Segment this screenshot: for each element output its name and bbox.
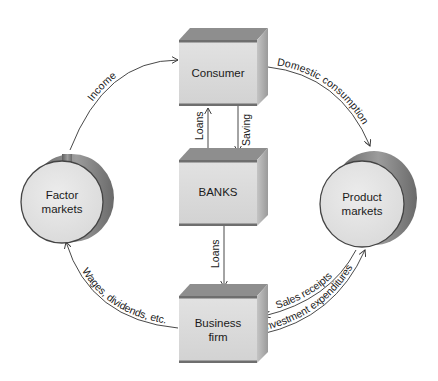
- node-business-firm: Business firm: [179, 284, 268, 363]
- business-firm-label-2: firm: [208, 331, 227, 343]
- node-banks: BANKS: [179, 148, 268, 226]
- svg-text:Income: Income: [84, 69, 118, 103]
- flow-loans-to-firm: Loans: [209, 226, 224, 287]
- svg-text:Wages, dividends, etc.: Wages, dividends, etc.: [80, 265, 168, 325]
- banks-label: BANKS: [199, 186, 238, 198]
- factor-markets-label-2: markets: [42, 203, 83, 215]
- node-factor-markets: Factor markets: [21, 154, 114, 243]
- node-consumer: Consumer: [179, 28, 268, 106]
- flow-label-wages: Wages, dividends, etc.: [80, 265, 168, 325]
- flow-income: Income: [70, 60, 178, 150]
- factor-markets-label-1: Factor: [46, 189, 79, 201]
- consumer-label: Consumer: [191, 67, 244, 79]
- circular-flow-diagram: Income Domestic consumption Wages, divid…: [0, 0, 438, 381]
- product-markets-label-1: Product: [342, 191, 382, 203]
- flow-label-saving: Saving: [240, 114, 252, 146]
- flow-loans-to-consumer: Loans: [193, 108, 208, 148]
- svg-text:Domestic consumption: Domestic consumption: [276, 55, 371, 126]
- flow-saving: Saving: [238, 106, 252, 152]
- flow-label-loans-up: Loans: [193, 111, 205, 140]
- flow-wages: Wages, dividends, etc.: [66, 242, 178, 328]
- product-markets-label-2: markets: [342, 205, 383, 217]
- flow-label-income: Income: [84, 69, 118, 103]
- node-product-markets: Product markets: [320, 151, 417, 247]
- business-firm-label-1: Business: [195, 317, 242, 329]
- flow-domestic-consumption: Domestic consumption: [268, 55, 372, 146]
- flow-label-domestic-consumption: Domestic consumption: [276, 55, 371, 126]
- flow-label-loans-down: Loans: [209, 239, 221, 268]
